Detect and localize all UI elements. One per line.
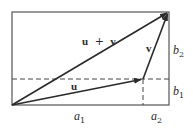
vector-sum-arrow	[12, 13, 167, 105]
label-sum-right: v	[110, 35, 116, 47]
label-u-plus-v: u + v	[82, 35, 116, 48]
label-u: u	[71, 80, 77, 92]
label-sum-left: u	[82, 35, 88, 47]
label-b2: b2	[173, 43, 184, 59]
label-v: v	[146, 42, 152, 54]
vector-addition-diagram: u u + v v a1 a2 b2 b1	[0, 0, 193, 133]
label-a1: a1	[74, 109, 85, 125]
label-b1: b1	[173, 84, 184, 100]
label-sum-op: +	[95, 35, 104, 48]
label-a2: a2	[151, 109, 162, 125]
